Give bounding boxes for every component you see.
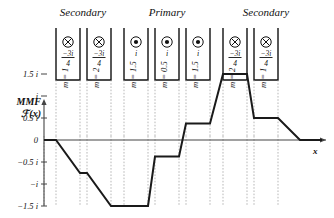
y-axis-arrow <box>41 99 46 105</box>
slot-current-denominator-7: 4 <box>264 59 268 68</box>
slot-current-3: i <box>135 49 137 58</box>
slot-6: −3i4m = 2 <box>223 28 247 136</box>
y-axis-ticks: 1.5 ii0.5 i0−0.5 i−i−1.5 i <box>17 69 47 211</box>
slot-current-5: i <box>197 49 199 58</box>
slot-turns-label-7: m = 1 <box>258 68 268 88</box>
plot-axes <box>41 99 326 206</box>
y-tick-label-6: −1.5 i <box>17 201 38 211</box>
group-label-0: Secondary <box>60 6 107 18</box>
y-tick-label-4: −0.5 i <box>17 157 38 167</box>
slot-5: im = 1.5 <box>186 28 210 136</box>
current-out-dot-5 <box>196 40 200 44</box>
group-label-1: Primary <box>148 6 186 18</box>
slot-3: im = 1.5 <box>124 28 148 136</box>
slot-layer: −3i4m = 1−3i4m = 2im = 1.5im = 0.5im = 1… <box>56 28 278 136</box>
slot-current-denominator-6: 4 <box>233 59 237 68</box>
x-axis-label: x <box>312 146 318 156</box>
slot-current-numerator-1: −3i <box>63 49 74 58</box>
slot-current-denominator-2: 4 <box>97 59 101 68</box>
slot-turns-label-5: m = 1.5 <box>190 61 200 88</box>
slot-2: −3i4m = 2 <box>87 28 111 136</box>
y-tick-label-5: −i <box>30 179 39 189</box>
y-tick-label-3: 0 <box>34 135 39 145</box>
current-out-dot-3 <box>134 40 138 44</box>
slot-current-numerator-6: −3i <box>230 49 241 58</box>
slot-4: im = 0.5 <box>155 28 179 136</box>
slot-1: −3i4m = 1 <box>56 28 80 136</box>
slot-current-denominator-1: 4 <box>66 59 70 68</box>
slot-turns-label-1: m = 1 <box>60 68 70 88</box>
mmf-title-line1: MMF <box>16 96 42 107</box>
mmf-slot-diagram: SecondaryPrimarySecondary −3i4m = 1−3i4m… <box>0 0 334 218</box>
y-tick-label-0: 1.5 i <box>23 69 39 79</box>
mmf-title-line2: ℱ(x) <box>21 108 41 120</box>
slot-current-4: i <box>166 49 168 58</box>
slot-turns-label-6: m = 2 <box>227 67 237 88</box>
group-label-2: Secondary <box>243 6 290 18</box>
slot-turns-label-2: m = 2 <box>91 67 101 88</box>
slot-7: −3i4m = 1 <box>254 28 278 136</box>
current-out-dot-4 <box>165 40 169 44</box>
winding-group-labels: SecondaryPrimarySecondary <box>60 6 290 18</box>
slot-turns-label-4: m = 0.5 <box>159 61 169 88</box>
slot-turns-label-3: m = 1.5 <box>128 61 138 88</box>
slot-current-numerator-7: −3i <box>261 49 272 58</box>
slot-current-numerator-2: −3i <box>94 49 105 58</box>
